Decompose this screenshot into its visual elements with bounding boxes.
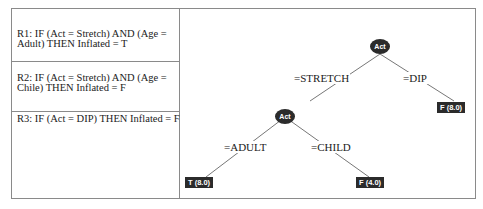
decision-tree: Act Act =STRETCH =DIP =ADULT =CHILD F (8… bbox=[179, 9, 476, 198]
edge-label-dip: =DIP bbox=[402, 72, 428, 84]
rule-r1: R1: IF (Act = Stretch) AND (Age = Adult)… bbox=[12, 20, 179, 62]
edge-label-adult: =ADULT bbox=[223, 141, 267, 153]
rule-r2: R2: IF (Act = Stretch) AND (Age = Chile)… bbox=[12, 62, 179, 112]
child-node-act: Act bbox=[275, 109, 295, 124]
edge-label-stretch: =STRETCH bbox=[293, 72, 350, 84]
rules-and-tree-figure: R1: IF (Act = Stretch) AND (Age = Adult)… bbox=[11, 8, 476, 199]
rule-r3: R3: IF (Act = DIP) THEN Inflated = F bbox=[12, 112, 179, 124]
root-node-act: Act bbox=[370, 39, 390, 54]
leaf-adult: T (8.0) bbox=[185, 177, 213, 188]
leaf-dip: F (8.0) bbox=[437, 102, 465, 113]
rules-column: R1: IF (Act = Stretch) AND (Age = Adult)… bbox=[12, 9, 180, 198]
leaf-child: F (4.0) bbox=[356, 177, 384, 188]
tree-edges bbox=[179, 9, 476, 198]
edge-label-child: =CHILD bbox=[310, 141, 352, 153]
